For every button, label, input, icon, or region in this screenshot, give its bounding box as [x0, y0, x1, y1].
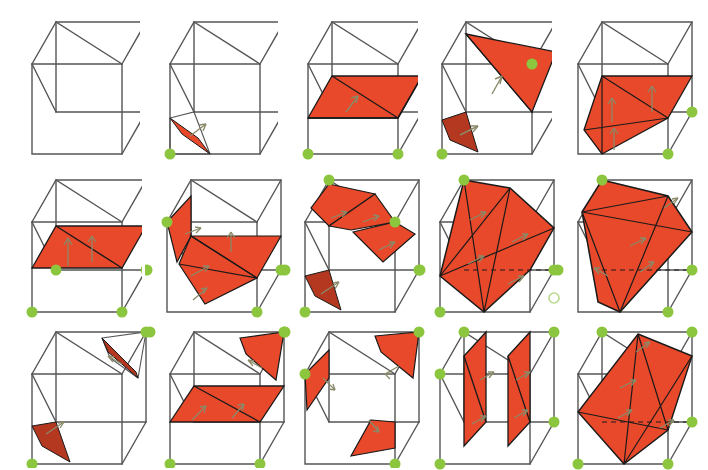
lattice-point — [300, 307, 311, 318]
lattice-point — [687, 327, 698, 338]
cube-front-face — [32, 64, 122, 154]
lattice-point — [597, 327, 608, 338]
cube-back-top — [56, 22, 140, 112]
cell-r1c4 — [420, 12, 552, 164]
lattice-point — [51, 265, 62, 276]
cell-r1c5 — [556, 12, 698, 168]
cell-r1c2 — [148, 12, 278, 164]
lattice-point — [27, 459, 38, 469]
cell-r1c1 — [10, 12, 140, 164]
lattice-point — [141, 265, 143, 276]
lattice-point — [459, 327, 470, 338]
lattice-point — [300, 369, 311, 380]
cube-left-diagonal — [32, 64, 56, 112]
lattice-point — [117, 307, 128, 318]
plane-corner-triangle — [240, 332, 284, 380]
lattice-point — [393, 149, 404, 160]
lattice-point — [556, 265, 564, 276]
lattice-point — [437, 149, 448, 160]
lattice-point — [303, 149, 314, 160]
lattice-point — [165, 459, 176, 469]
lattice-point — [435, 459, 446, 470]
plane-hexagon — [440, 180, 554, 312]
plane-sliver-bottom — [32, 422, 70, 462]
plane-quad — [584, 76, 692, 154]
cell-r3c2 — [148, 322, 288, 468]
lattice-point — [687, 417, 698, 428]
lattice-point — [573, 459, 584, 470]
lattice-point — [527, 59, 538, 70]
lattice-point — [435, 307, 446, 318]
lattice-point — [145, 265, 153, 276]
lattice-point — [283, 265, 291, 276]
plane-sliver — [442, 112, 478, 152]
lattice-point — [459, 175, 470, 186]
plane-quad — [578, 334, 692, 464]
cell-r2c1 — [10, 170, 142, 320]
cell-r1c3 — [286, 12, 418, 164]
normal-arrow-1 — [492, 76, 502, 94]
lattice-point — [283, 327, 291, 338]
plane-rhombus — [32, 226, 142, 268]
lattice-point — [390, 459, 401, 469]
cube-right-top-diagonal — [122, 22, 140, 64]
lattice-point — [255, 459, 266, 469]
cell-r2c3 — [283, 170, 427, 322]
plane-sliver — [305, 270, 341, 310]
cell-r2c5 — [556, 170, 702, 326]
cell-r2c2 — [145, 170, 285, 320]
lattice-point — [663, 149, 674, 160]
cube-right-bottom-diagonal — [122, 112, 140, 154]
lattice-point — [687, 265, 698, 276]
cell-r3c5 — [556, 322, 702, 470]
lattice-plane-figure — [0, 0, 708, 470]
lattice-point — [165, 149, 176, 160]
cube-top-edges — [32, 22, 122, 64]
lattice-point — [390, 217, 401, 228]
cell-r2c4 — [418, 170, 564, 326]
lattice-point — [162, 217, 173, 228]
plane-triangle-upper-b — [466, 34, 552, 112]
lattice-point — [597, 175, 608, 186]
lattice-point — [663, 307, 674, 318]
cell-r3c1 — [10, 322, 150, 468]
lattice-point — [252, 307, 263, 318]
lattice-point — [663, 459, 674, 470]
lattice-point — [324, 175, 335, 186]
lattice-point — [687, 107, 698, 118]
lattice-point — [435, 369, 446, 380]
lattice-point — [148, 327, 156, 338]
cell-r3c3 — [283, 322, 425, 468]
lattice-point — [418, 265, 426, 276]
cell-r3c4 — [418, 322, 564, 470]
lattice-point — [27, 307, 38, 318]
normal-arrow-1 — [190, 124, 206, 136]
cube-back-edges — [56, 22, 140, 112]
